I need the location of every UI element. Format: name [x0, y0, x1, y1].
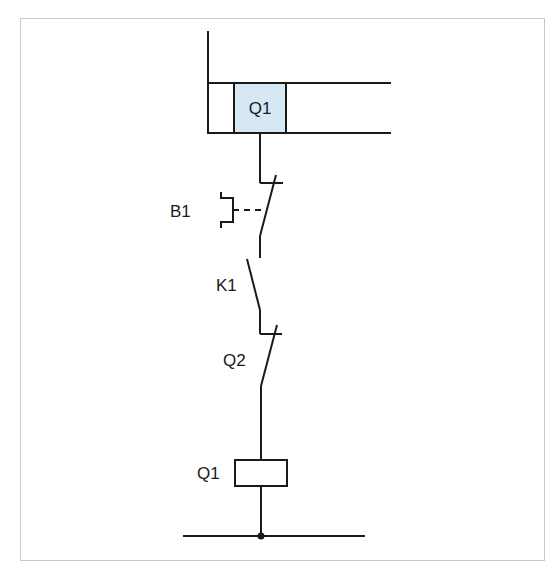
circuit-schematic: Q1 B1 K1	[0, 0, 557, 574]
k1-label: K1	[216, 276, 237, 295]
k1-contact	[247, 259, 260, 334]
b1-contact	[260, 175, 283, 258]
junction-dot	[258, 533, 265, 540]
b1-label: B1	[170, 202, 191, 221]
q1-top-label: Q1	[249, 99, 272, 118]
q2-contact	[260, 325, 282, 460]
q1-top-block: Q1	[234, 83, 286, 133]
q1-coil-label: Q1	[197, 464, 220, 483]
q2-label: Q2	[223, 351, 246, 370]
b1-pushbutton-actuator-icon	[221, 192, 262, 228]
q1-coil	[235, 460, 287, 486]
